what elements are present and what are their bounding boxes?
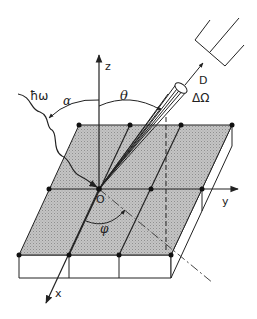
photoemission-diagram: y x z D ΔΩ θ α ħω φ O xyxy=(0,0,257,319)
phi-label: φ xyxy=(100,222,109,236)
z-axis-label: z xyxy=(105,60,111,73)
detector-label: D xyxy=(199,74,207,87)
y-axis-label: y xyxy=(222,195,229,208)
theta-arc xyxy=(99,100,161,110)
solid-angle-label: ΔΩ xyxy=(192,91,209,105)
theta-label: θ xyxy=(120,88,128,103)
origin-label: O xyxy=(96,193,105,206)
x-axis-label: x xyxy=(55,287,62,300)
photon-label: ħω xyxy=(30,89,48,103)
alpha-arc xyxy=(49,100,99,118)
alpha-label: α xyxy=(63,94,71,108)
detector xyxy=(195,18,244,66)
